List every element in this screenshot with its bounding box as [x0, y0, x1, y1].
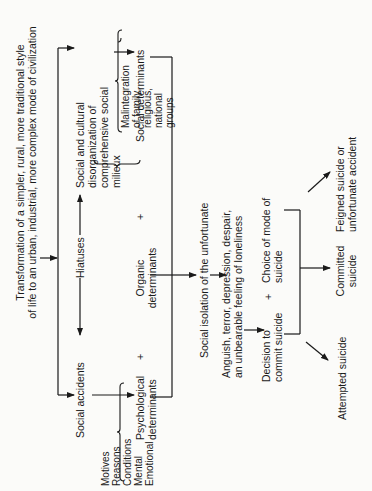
organic-determinants: Organic determinants — [134, 246, 158, 310]
feigned-suicide-label: Feigned suicide or unfortunate accident — [334, 137, 358, 232]
psychological-factors-list: Motives Reasons Conditions Mental Emotio… — [100, 439, 155, 486]
social-cultural-disorganization: Social and cultural disorganization of c… — [74, 87, 122, 188]
suicide-determinants-diagram: Transformation of a simpler, rural, more… — [0, 0, 372, 491]
social-factors-list: Malintegration of family, religious, nat… — [120, 65, 175, 128]
committed-suicide-label: Committed suicide — [334, 244, 358, 298]
choice-label: Choice of mode of suicide — [260, 198, 284, 283]
title-transformation: Transformation of a simpler, rural, more… — [14, 10, 38, 335]
plus-sign: + — [262, 294, 274, 300]
decision-label: Decision to commit suicide — [260, 313, 284, 382]
feelings-label: Anguish, terror, depression, despair, an… — [220, 210, 244, 378]
social-isolation-label: Social isolation of the unfortunate — [198, 203, 210, 358]
hiatuses-label: Hiatuses — [74, 237, 86, 278]
psychological-determinants: Psychological determinants — [134, 376, 158, 440]
brace-shapes — [0, 0, 372, 491]
plus-sign: + — [134, 214, 146, 220]
plus-sign: + — [134, 354, 146, 360]
attempted-suicide-label: Attempted suicide — [336, 337, 348, 420]
social-accidents-label: Social accidents — [74, 362, 86, 438]
